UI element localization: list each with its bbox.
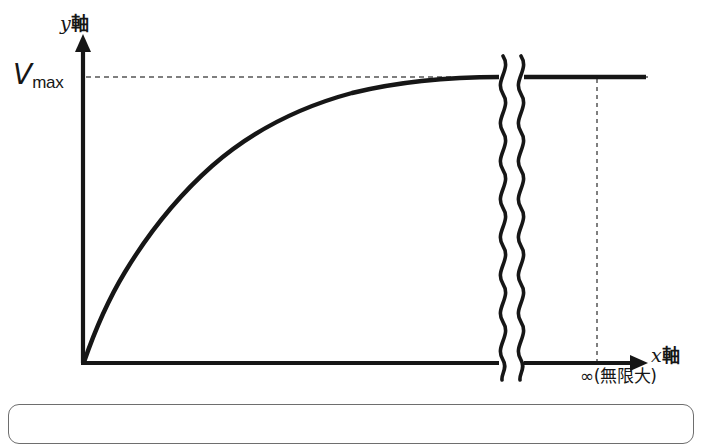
saturation-curve-path: [84, 77, 500, 362]
x-axis-label-variable: x: [651, 344, 662, 366]
vmax-subscript: max: [32, 73, 64, 92]
x-axis-label: x軸: [651, 346, 680, 365]
infinity-tick-label: ∞(無限大): [580, 368, 657, 385]
caption-box: [8, 404, 694, 444]
y-axis-label-suffix: 軸: [71, 13, 89, 34]
x-axis-label-suffix: 軸: [662, 345, 680, 366]
y-axis-label-variable: y: [60, 12, 71, 34]
y-axis-label: y軸: [60, 14, 89, 33]
vmax-label: Vmax: [13, 61, 64, 91]
vmax-symbol: V: [13, 58, 32, 91]
y-axis-arrow-icon: [75, 34, 91, 52]
